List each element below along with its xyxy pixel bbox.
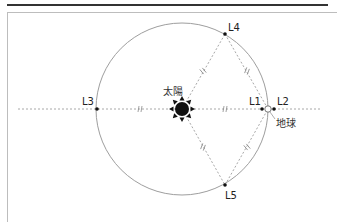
sun-icon — [169, 96, 195, 122]
sun-label: 太陽 — [163, 85, 183, 97]
l2-point — [272, 107, 276, 111]
earth-label: 地球 — [276, 117, 296, 129]
l5-label: L5 — [225, 190, 237, 201]
l4-point — [223, 32, 227, 36]
l3-label: L3 — [82, 96, 94, 107]
l1-point — [260, 107, 264, 111]
l3-point — [95, 107, 99, 111]
l1-label: L1 — [249, 96, 261, 107]
l5-point — [223, 183, 227, 187]
l4-label: L4 — [228, 22, 240, 33]
earth-icon — [265, 106, 271, 112]
l2-label: L2 — [277, 96, 289, 107]
earth-leader-line — [270, 112, 275, 119]
